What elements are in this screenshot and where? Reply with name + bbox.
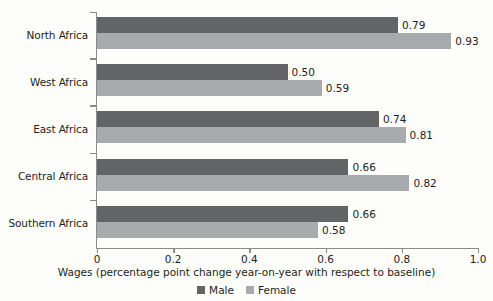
bar-female: [97, 127, 406, 143]
bar-female: [97, 33, 451, 49]
bar-value-label: 0.58: [322, 222, 345, 238]
bar-value-label: 0.50: [292, 64, 315, 80]
x-axis-title: Wages (percentage point change year-on-y…: [0, 266, 493, 278]
bar-value-label: 0.66: [352, 159, 375, 175]
bar-value-label: 0.93: [455, 33, 478, 49]
legend-swatch-icon: [197, 286, 205, 294]
x-axis-tick-label: 0: [94, 253, 101, 265]
y-axis-category-label: West Africa: [0, 76, 88, 88]
bar-value-label: 0.79: [402, 17, 425, 33]
x-axis-tick-label: 0.2: [165, 253, 182, 265]
y-axis-tick: [90, 105, 97, 106]
bar-male: [97, 64, 288, 80]
y-axis-tick: [90, 58, 97, 59]
y-axis-category-label: Southern Africa: [0, 217, 88, 229]
x-axis-tick-label: 0.6: [317, 253, 334, 265]
bar-value-label: 0.81: [410, 127, 433, 143]
bar-value-label: 0.74: [383, 111, 406, 127]
y-axis-tick: [90, 200, 97, 201]
bar-value-label: 0.82: [413, 175, 436, 191]
legend-label: Female: [258, 284, 296, 296]
y-axis-top-cap: [90, 12, 97, 13]
y-axis-category-label: Central Africa: [0, 170, 88, 182]
bar-female: [97, 222, 318, 238]
legend-item[interactable]: Male: [197, 284, 234, 296]
legend-swatch-icon: [246, 286, 254, 294]
legend-item[interactable]: Female: [246, 284, 296, 296]
bar-male: [97, 206, 348, 222]
y-axis-category-label: North Africa: [0, 29, 88, 41]
bar-value-label: 0.59: [326, 80, 349, 96]
bar-value-label: 0.66: [352, 206, 375, 222]
x-axis-tick-label: 0.8: [393, 253, 410, 265]
x-axis-tick-label: 1.0: [470, 253, 487, 265]
bar-chart: North Africa0.790.93West Africa0.500.59E…: [0, 0, 493, 301]
y-axis-category-label: East Africa: [0, 123, 88, 135]
bar-male: [97, 17, 398, 33]
x-axis-tick-label: 0.4: [241, 253, 258, 265]
bar-male: [97, 111, 379, 127]
legend-label: Male: [209, 284, 234, 296]
bar-male: [97, 159, 348, 175]
bar-female: [97, 175, 409, 191]
x-axis-line: [96, 248, 478, 249]
bar-female: [97, 80, 322, 96]
y-axis-tick: [90, 153, 97, 154]
chart-legend: MaleFemale: [0, 284, 493, 296]
